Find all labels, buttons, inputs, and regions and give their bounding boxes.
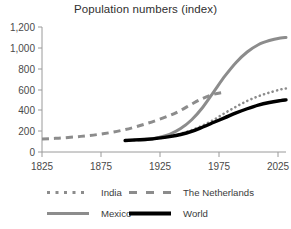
legend-item-world[interactable]: World: [118, 208, 208, 219]
chart-legend: India The Netherlands Mexico World: [0, 182, 291, 224]
legend-item-india[interactable]: India: [0, 187, 118, 198]
dotted-line-swatch-icon: [46, 187, 90, 198]
x-tick-label-1925: 1925: [149, 161, 172, 172]
x-tick-label-1975: 1975: [208, 161, 231, 172]
legend-item-the-netherlands[interactable]: The Netherlands: [118, 187, 254, 198]
population-index-chart: Population numbers (index) 1,200 1,000 8…: [0, 0, 291, 229]
x-tick-label-1825: 1825: [31, 161, 54, 172]
y-tick-label-600: 600: [18, 85, 35, 96]
series-layer: [42, 37, 286, 140]
legend-row-2: Mexico World: [0, 203, 291, 224]
dashed-line-swatch-icon: [128, 187, 172, 198]
x-tick-label-2025: 2025: [267, 161, 290, 172]
legend-row-1: India The Netherlands: [0, 182, 291, 203]
x-ticks: [42, 152, 278, 157]
y-tick-label-1000: 1,000: [10, 43, 35, 54]
y-tick-label-800: 800: [18, 64, 35, 75]
legend-item-mexico[interactable]: Mexico: [0, 208, 118, 219]
x-tick-label-1875: 1875: [90, 161, 113, 172]
y-tick-label-0: 0: [29, 147, 35, 158]
y-ticks: [38, 27, 42, 152]
solid-black-line-swatch-icon: [128, 208, 172, 219]
y-tick-label-400: 400: [18, 105, 35, 116]
y-tick-label-200: 200: [18, 126, 35, 137]
legend-label-world: World: [183, 208, 208, 219]
solid-gray-line-swatch-icon: [46, 208, 90, 219]
y-tick-label-1200: 1,200: [10, 22, 35, 33]
legend-label-the-netherlands: The Netherlands: [183, 187, 254, 198]
